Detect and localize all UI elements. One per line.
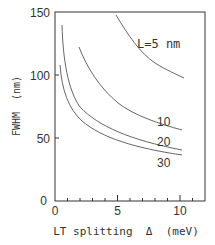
x-tick-label-5: 5	[114, 204, 121, 218]
x-axis-ticks	[68, 195, 193, 201]
y-tick-label-150: 150	[30, 6, 50, 20]
x-axis-title: LT splitting Δ (meV)	[53, 225, 199, 238]
y-tick-label-100: 100	[30, 69, 50, 83]
y-tick-label-0: 0	[40, 194, 47, 208]
series-label-l30: 30	[157, 156, 171, 170]
plot-frame	[55, 12, 205, 201]
y-axis-title: FWHM (nm)	[11, 76, 22, 136]
y-axis-ticks	[55, 75, 59, 138]
series-label-l10: 10	[157, 115, 171, 129]
y-tick-label-50: 50	[37, 132, 51, 146]
x-tick-label-10: 10	[173, 204, 187, 218]
fwhm-vs-lt-splitting-chart: 150 100 50 0 0 5 10 LT splitting Δ (meV)…	[0, 0, 215, 245]
series-label-l5: L=5 nm	[137, 37, 180, 51]
x-tick-label-0: 0	[52, 204, 59, 218]
series-label-l20: 20	[157, 135, 171, 149]
